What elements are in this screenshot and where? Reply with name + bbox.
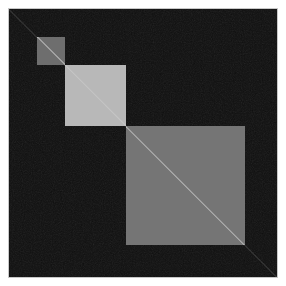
heatmap-plot-area[interactable]: cluster-1 cluster-2 cluster-3 [8,8,278,278]
matrix-block-cluster-2[interactable]: cluster-2 [65,65,126,126]
matrix-block-cluster-1[interactable]: cluster-1 [37,37,65,65]
block-diagonal-line-2 [65,65,126,126]
figure-canvas: cluster-1 cluster-2 cluster-3 [0,0,286,286]
block-diagonal-line-3 [126,126,245,245]
matrix-block-cluster-3[interactable]: cluster-3 [126,126,245,245]
block-diagonal-line-1 [37,37,65,65]
